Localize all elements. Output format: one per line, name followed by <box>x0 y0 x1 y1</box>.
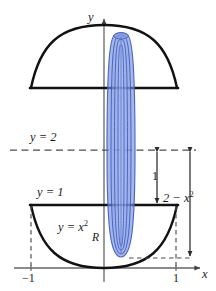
diagram-canvas <box>0 0 216 291</box>
shell-height-base: 2 − x <box>163 191 189 205</box>
label-y-equals-2: y = 2 <box>30 131 56 144</box>
cylindrical-shell-group <box>107 33 135 257</box>
label-parabola-equation: y = x2 <box>58 219 88 234</box>
shell-height-exponent: 2 <box>189 189 193 199</box>
label-x-tick-one: 1 <box>173 272 179 284</box>
label-shell-height-one: 1 <box>152 170 158 182</box>
shell-method-diagram: y = 2 y = 1 y = x2 R 1 2 − x2 y x −1 1 <box>0 0 216 291</box>
label-x-axis: x <box>202 268 208 281</box>
label-y-equals-1: y = 1 <box>37 186 63 199</box>
shell-top-cap <box>114 33 129 39</box>
label-region-R: R <box>92 232 99 244</box>
label-shell-height-expression: 2 − x2 <box>163 190 194 205</box>
label-x-tick-minus-one: −1 <box>22 272 35 284</box>
parabola-equation-exponent: 2 <box>84 218 88 228</box>
parabola-equation-base: y = x <box>58 220 84 234</box>
label-y-axis: y <box>88 11 94 24</box>
